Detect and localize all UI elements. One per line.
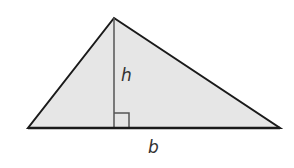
triangle-diagram: h b <box>0 0 294 168</box>
height-label: h <box>121 65 132 85</box>
base-label: b <box>148 137 159 157</box>
triangle <box>28 18 280 128</box>
